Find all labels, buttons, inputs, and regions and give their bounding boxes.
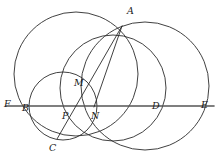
point-label-P: P: [62, 111, 68, 121]
geometry-canvas: [0, 0, 221, 161]
circles-group: [14, 12, 209, 150]
point-label-A: A: [127, 6, 134, 16]
geometry-figure: A M F B P N D E C: [0, 0, 221, 161]
point-label-M: M: [74, 78, 84, 88]
chord-A-C: [57, 26, 122, 139]
point-label-N: N: [91, 111, 99, 121]
point-label-F: F: [4, 99, 11, 109]
point-label-D: D: [152, 101, 160, 111]
point-label-B: B: [22, 103, 29, 113]
point-label-E: E: [201, 100, 208, 110]
point-label-C: C: [49, 143, 56, 153]
